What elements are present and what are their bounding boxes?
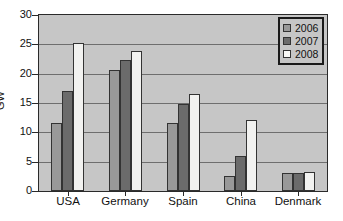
bar-china-2006 <box>224 176 235 191</box>
bar-denmark-2007 <box>293 173 304 191</box>
bar-denmark-2006 <box>282 173 293 191</box>
bar-spain-2006 <box>167 123 178 191</box>
legend-swatch-2007 <box>283 37 291 45</box>
legend-item-label: 2007 <box>295 36 318 47</box>
legend-item-2008[interactable]: 2008 <box>283 48 318 60</box>
bar-usa-2008 <box>73 43 84 191</box>
bar-germany-2007 <box>120 60 131 191</box>
y-axis-tick-label: 30 <box>10 9 32 20</box>
bar-china-2007 <box>235 156 246 191</box>
y-axis-tick-label: 25 <box>10 38 32 49</box>
legend-item-2007[interactable]: 2007 <box>283 35 318 47</box>
y-axis-tick-label: 15 <box>10 97 32 108</box>
y-axis-tick-label: 20 <box>10 68 32 79</box>
bar-spain-2007 <box>178 104 189 191</box>
bar-germany-2006 <box>109 70 120 191</box>
chart-legend: 200620072008 <box>278 17 324 65</box>
legend-swatch-2006 <box>283 24 291 32</box>
y-axis-tick-label: 10 <box>10 126 32 137</box>
bar-germany-2008 <box>131 51 142 191</box>
y-axis-tick-label: 5 <box>10 156 32 167</box>
bar-usa-2007 <box>62 91 73 191</box>
legend-swatch-2008 <box>283 50 291 58</box>
legend-item-label: 2006 <box>295 23 318 34</box>
bar-usa-2006 <box>51 123 62 191</box>
x-axis-tick-label-denmark: Denmark <box>258 195 338 208</box>
bar-denmark-2008 <box>304 172 315 191</box>
bar-spain-2008 <box>189 94 200 191</box>
bar-china-2008 <box>246 120 257 191</box>
legend-item-2006[interactable]: 2006 <box>283 22 318 34</box>
bar-chart: GW 051015202530 USAGermanySpainChinaDenm… <box>0 0 343 221</box>
legend-item-label: 2008 <box>295 49 318 60</box>
